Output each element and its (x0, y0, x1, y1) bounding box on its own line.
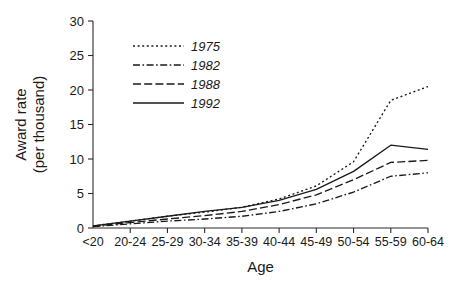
y-tick-label: 30 (70, 14, 84, 29)
legend-label-1975: 1975 (191, 39, 221, 54)
y-tick-label: 15 (70, 117, 84, 132)
x-tick-label: 40-44 (263, 235, 295, 249)
y-tick-label: 0 (77, 221, 84, 236)
x-tick-label: 20-24 (114, 235, 146, 249)
x-tick-label: 35-39 (226, 235, 258, 249)
chart-figure: 051015202530 <2020-2425-2930-3435-3940-4… (0, 0, 457, 284)
legend-label-1988: 1988 (191, 77, 221, 92)
y-axis-title-line1: Award rate (12, 88, 29, 160)
series-line-1982 (93, 173, 428, 227)
y-axis-title-line2: (per thousand) (30, 76, 47, 174)
y-tick-label: 10 (70, 152, 84, 167)
data-series-group (93, 87, 428, 227)
series-line-1988 (93, 160, 428, 226)
chart-legend: 1975198219881992 (133, 39, 221, 111)
x-tick-label: 45-49 (300, 235, 332, 249)
x-tick-label: 60-64 (412, 235, 444, 249)
series-line-1975 (93, 87, 428, 226)
x-tick-label: 25-29 (151, 235, 183, 249)
y-tick-label: 20 (70, 83, 84, 98)
x-tick-label: 50-54 (338, 235, 370, 249)
legend-label-1992: 1992 (191, 96, 221, 111)
x-axis-title: Age (247, 258, 274, 275)
x-axis: <2020-2425-2930-3435-3940-4445-4950-5455… (82, 228, 444, 249)
line-chart: 051015202530 <2020-2425-2930-3435-3940-4… (0, 0, 457, 284)
y-tick-label: 25 (70, 48, 84, 63)
x-tick-label: 30-34 (189, 235, 221, 249)
y-tick-label: 5 (77, 186, 84, 201)
y-axis: 051015202530 (70, 14, 93, 236)
x-tick-label: <20 (82, 235, 103, 249)
x-tick-label: 55-59 (375, 235, 407, 249)
legend-label-1982: 1982 (191, 58, 221, 73)
